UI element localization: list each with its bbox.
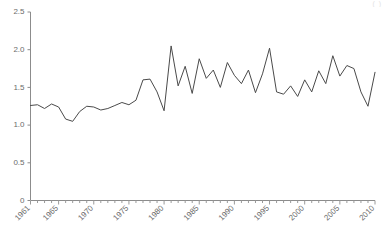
y-axis-tick-labels: 00.51.01.52.02.5 xyxy=(13,7,25,205)
x-tick-label: 2010 xyxy=(357,203,376,222)
x-tick-label: 1975 xyxy=(111,203,130,222)
x-axis: 1961196519701975198019851990199520002005… xyxy=(13,201,377,223)
x-tick-label: 1985 xyxy=(182,203,201,222)
x-tick-label: 2005 xyxy=(322,203,341,222)
y-tick-label: 1.5 xyxy=(13,83,25,92)
y-tick-label: 1.0 xyxy=(13,120,25,129)
corner-text-fragment: ( ) xyxy=(372,0,382,7)
x-tick-label: 2000 xyxy=(287,203,306,222)
x-tick-label: 1990 xyxy=(217,203,236,222)
x-tick-label: 1970 xyxy=(76,203,95,222)
x-tick-label: 1961 xyxy=(13,203,32,222)
x-tick-label: 1995 xyxy=(252,203,271,222)
x-tick-label: 1965 xyxy=(41,203,60,222)
x-axis-tick-labels: 1961196519701975198019851990199520002005… xyxy=(13,203,377,222)
y-tick-label: 2.0 xyxy=(13,45,25,54)
x-tick-label: 1980 xyxy=(147,203,166,222)
y-tick-label: 2.5 xyxy=(13,7,25,16)
y-tick-label: 0.5 xyxy=(13,158,25,167)
y-tick-label: 0 xyxy=(20,196,25,205)
y-axis: 00.51.01.52.02.5 xyxy=(13,7,30,205)
x-axis-minor-ticks xyxy=(31,201,376,205)
data-series-line xyxy=(31,46,376,121)
data-series-group xyxy=(31,46,376,121)
chart-canvas: 00.51.01.52.02.5 19611965197019751980198… xyxy=(0,0,384,239)
line-chart: ( ) 00.51.01.52.02.5 1961196519701975198… xyxy=(0,0,384,239)
